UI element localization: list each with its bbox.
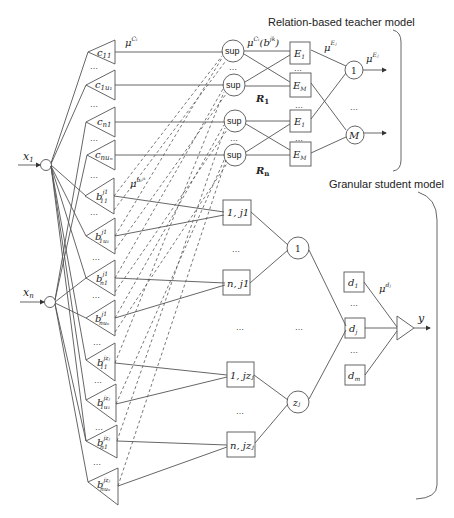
relation-label-rn: Rn — [255, 165, 269, 178]
b-node-label: bj11u₁ — [95, 228, 109, 244]
ellipsis: … — [350, 299, 358, 308]
b-node-label: bjzⱼn1 — [97, 434, 110, 450]
e-node-label: EM — [292, 80, 307, 92]
mu-c-b-label: μCₗ(bjk) — [247, 35, 279, 48]
b-node-label: bj111 — [96, 188, 108, 204]
ellipsis: … — [295, 134, 303, 143]
sup-node-label: sup — [226, 80, 241, 90]
d-node-label: dj — [349, 323, 357, 336]
e-node-label: E1 — [293, 48, 305, 60]
ellipsis: … — [295, 323, 303, 332]
ellipsis: … — [350, 103, 358, 112]
c-node-label: cnuₙ — [95, 149, 113, 162]
ellipsis: … — [236, 323, 244, 332]
relation-label-r1: R1 — [255, 93, 269, 106]
rule-node-label: n, jzⱼ — [230, 440, 254, 451]
c-node-label: c1u₁ — [95, 79, 113, 92]
rule-node-label: n, j1 — [227, 278, 249, 289]
d-node-label: d1 — [348, 277, 358, 289]
sup-node-label: sup — [227, 116, 242, 126]
sup-node-label: sup — [227, 150, 242, 160]
ellipsis: … — [236, 407, 244, 416]
mu-e-label: μEⱼ — [366, 51, 379, 64]
ellipsis: … — [294, 64, 302, 73]
teacher-model-title: Relation-based teacher model — [268, 16, 415, 28]
class-node-label: M — [348, 130, 360, 141]
ellipsis: … — [92, 291, 100, 300]
sup-node-label: sup — [225, 46, 240, 56]
d-node-label: dm — [348, 370, 360, 382]
input-label-xn: xn — [23, 286, 34, 300]
agg-node-label: 1 — [295, 244, 301, 254]
b-node-label: bj1n1 — [96, 270, 108, 286]
ellipsis: … — [295, 101, 303, 110]
ellipsis: … — [93, 458, 101, 467]
input-node-x1 — [41, 160, 52, 171]
ellipsis: … — [95, 423, 103, 432]
mu-b-label: μbₗʲᵏ — [130, 176, 146, 189]
input-node-xn — [45, 297, 56, 308]
c-node-label: c11 — [97, 47, 112, 60]
ellipsis: … — [230, 134, 238, 143]
e-node-label: E1 — [293, 116, 305, 128]
ellipsis: … — [90, 62, 98, 71]
mu-e-i-label: μEⱼ — [324, 39, 337, 53]
b-node-label: bjzⱼ11 — [97, 354, 110, 370]
ellipsis: … — [94, 376, 102, 385]
rule-node-label: 1, jzⱼ — [230, 370, 254, 381]
neural-network-diagram: x1 xn c11 c1u₁ cn1 cnuₙ bj111 bj11u₁ bj1… — [0, 0, 454, 518]
input-label-x1: x1 — [23, 150, 34, 164]
agg-node-label: zⱼ — [292, 398, 301, 408]
student-model-title: Granular student model — [329, 178, 444, 190]
ellipsis: … — [232, 245, 240, 254]
output-label-y: y — [417, 312, 425, 325]
rule-node-label: 1, j1 — [227, 207, 249, 218]
ellipsis: … — [93, 338, 101, 347]
ellipsis: … — [92, 253, 100, 262]
ellipsis: … — [90, 171, 98, 180]
e-node-label: EM — [292, 149, 307, 161]
ellipsis: … — [90, 134, 98, 143]
b-node-label: bjzⱼ1u₁ — [97, 394, 110, 410]
class-node-label: 1 — [351, 66, 357, 76]
b-node-label: bj1nuₙ — [95, 310, 110, 326]
ellipsis: … — [229, 63, 237, 72]
ellipsis: … — [90, 100, 98, 109]
b-node-label: bjzⱼnuₙ — [97, 476, 111, 492]
mu-d-label: μdⱼ — [379, 281, 391, 294]
mu-c-label: μCₗ — [125, 35, 138, 48]
ellipsis: … — [90, 208, 98, 217]
c-node-label: cn1 — [97, 116, 112, 129]
ellipsis: … — [350, 346, 358, 355]
